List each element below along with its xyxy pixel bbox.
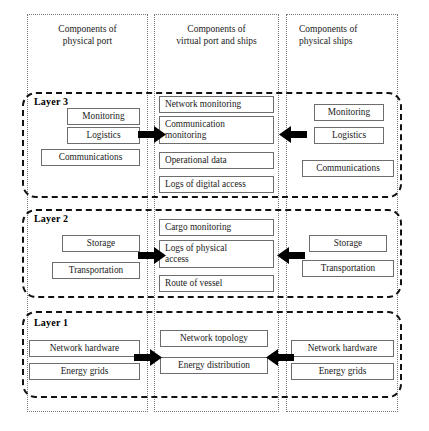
item-l3-mid-communication-monitoring[interactable]: Communication monitoring — [159, 116, 274, 144]
item-label-line2: access — [165, 254, 189, 264]
item-label: Network topology — [180, 333, 248, 344]
item-label: Communications — [316, 163, 380, 174]
arrow-l1-left-to-middle — [134, 349, 162, 366]
item-l2-left-transportation[interactable]: Transportation — [52, 262, 140, 279]
item-l2-right-transportation[interactable]: Transportation — [302, 260, 394, 277]
item-l2-left-storage[interactable]: Storage — [62, 235, 140, 252]
item-l3-mid-logs-of-digital-access[interactable]: Logs of digital access — [159, 176, 274, 193]
item-label: Network monitoring — [165, 99, 241, 110]
column-header-line1: Components of — [187, 24, 245, 34]
layer-3-label: Layer 3 — [34, 96, 68, 107]
item-l3-mid-network-monitoring[interactable]: Network monitoring — [159, 96, 274, 113]
item-l3-left-logistics[interactable]: Logistics — [67, 127, 140, 144]
item-label: Network hardware — [308, 343, 377, 354]
layer-1-label: Layer 1 — [34, 317, 68, 328]
item-label: Transportation — [69, 265, 123, 276]
item-label: Logistics — [332, 130, 366, 141]
item-l1-mid-energy-distribution[interactable]: Energy distribution — [160, 357, 268, 374]
item-label: Monitoring — [82, 111, 124, 122]
item-l1-right-energy-grids[interactable]: Energy grids — [291, 363, 394, 380]
item-label: Storage — [87, 238, 115, 249]
item-label: Transportation — [321, 263, 375, 274]
item-label: Operational data — [165, 155, 227, 166]
item-l3-right-logistics[interactable]: Logistics — [314, 127, 384, 144]
item-l2-mid-route-of-vessel[interactable]: Route of vessel — [159, 275, 274, 292]
item-label: Energy grids — [61, 366, 109, 377]
item-l2-mid-logs-of-physical-access[interactable]: Logs of physical access — [159, 240, 274, 268]
item-l1-left-energy-grids[interactable]: Energy grids — [29, 363, 140, 380]
item-label: Communication monitoring — [165, 119, 225, 141]
column-header-physical-port: Components of physical port — [28, 23, 147, 47]
column-header-physical-ships: Components of physical ships — [287, 23, 397, 47]
arrow-l2-left-to-middle — [138, 247, 166, 264]
arrow-l2-right-to-middle — [277, 247, 305, 264]
item-label-line2: monitoring — [165, 130, 206, 140]
item-label: Route of vessel — [165, 278, 222, 289]
column-header-line1: Components of — [299, 24, 357, 34]
arrow-l3-left-to-middle — [138, 126, 166, 143]
column-header-virtual-port: Components of virtual port and ships — [155, 23, 278, 47]
item-label-line1: Communication — [165, 119, 225, 129]
item-l3-left-monitoring[interactable]: Monitoring — [67, 108, 140, 125]
column-header-line1: Components of — [58, 24, 116, 34]
column-header-line2: physical ships — [299, 36, 353, 46]
item-label: Cargo monitoring — [165, 222, 231, 233]
item-l3-left-communications[interactable]: Communications — [41, 149, 140, 166]
item-label-line1: Logs of physical — [165, 243, 227, 253]
item-l2-mid-cargo-monitoring[interactable]: Cargo monitoring — [159, 219, 274, 236]
item-label: Energy grids — [319, 366, 367, 377]
arrow-l3-right-to-middle — [279, 126, 307, 143]
column-virtual-port-and-ships: Components of virtual port and ships — [154, 14, 279, 412]
item-label: Communications — [59, 152, 123, 163]
item-label: Monitoring — [328, 107, 370, 118]
item-label: Logs of physical access — [165, 243, 227, 265]
item-l3-right-monitoring[interactable]: Monitoring — [314, 104, 384, 121]
item-label: Logistics — [86, 130, 120, 141]
diagram-canvas: Components of physical port Components o… — [0, 0, 429, 431]
column-header-line2: virtual port and ships — [176, 36, 256, 46]
arrow-l1-right-to-middle — [266, 349, 294, 366]
layer-2-label: Layer 2 — [34, 213, 68, 224]
item-label: Network hardware — [50, 343, 119, 354]
item-l1-left-network-hardware[interactable]: Network hardware — [29, 340, 140, 357]
item-label: Logs of digital access — [165, 179, 246, 190]
item-l3-right-communications[interactable]: Communications — [302, 160, 394, 177]
item-l1-mid-network-topology[interactable]: Network topology — [160, 330, 268, 347]
item-label: Energy distribution — [178, 360, 250, 371]
item-l3-mid-operational-data[interactable]: Operational data — [159, 152, 274, 169]
column-header-line2: physical port — [63, 36, 112, 46]
item-l1-right-network-hardware[interactable]: Network hardware — [291, 340, 394, 357]
item-l2-right-storage[interactable]: Storage — [309, 235, 387, 252]
item-label: Storage — [334, 238, 362, 249]
